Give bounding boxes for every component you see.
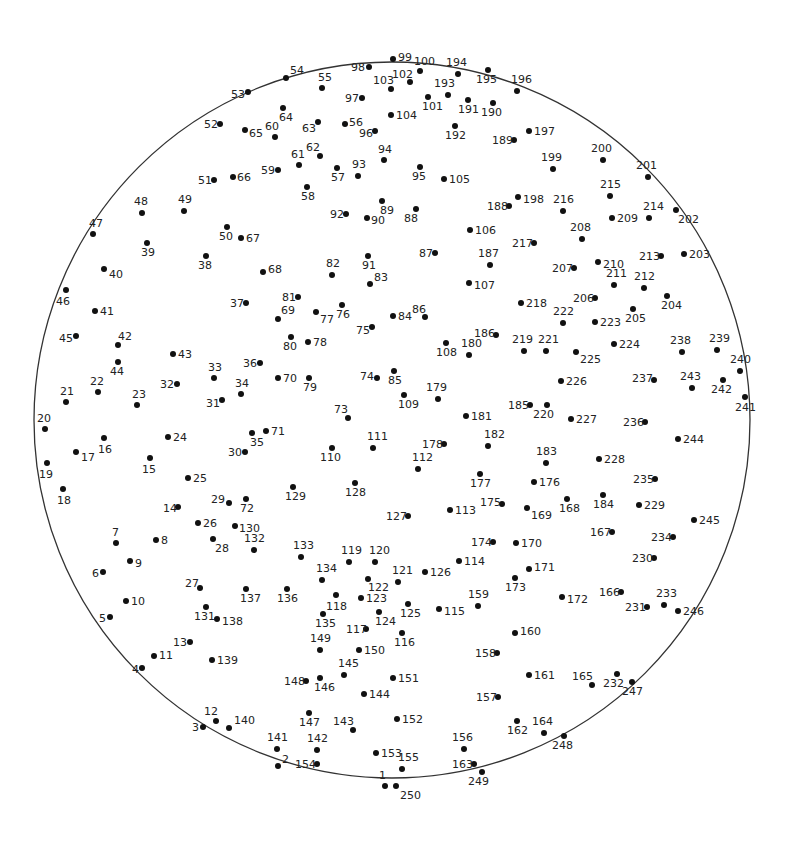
dot-point[interactable] <box>73 449 79 455</box>
dot-point[interactable] <box>195 520 201 526</box>
dot-point[interactable] <box>366 64 372 70</box>
dot-point[interactable] <box>181 208 187 214</box>
dot-point[interactable] <box>356 647 362 653</box>
dot-point[interactable] <box>283 75 289 81</box>
dot-point[interactable] <box>242 449 248 455</box>
dot-point[interactable] <box>147 455 153 461</box>
dot-point[interactable] <box>560 208 566 214</box>
dot-point[interactable] <box>232 523 238 529</box>
dot-point[interactable] <box>63 399 69 405</box>
dot-point[interactable] <box>275 763 281 769</box>
dot-point[interactable] <box>382 783 388 789</box>
dot-point[interactable] <box>592 319 598 325</box>
dot-point[interactable] <box>512 630 518 636</box>
dot-point[interactable] <box>466 352 472 358</box>
dot-point[interactable] <box>305 339 311 345</box>
dot-point[interactable] <box>445 92 451 98</box>
dot-point[interactable] <box>447 507 453 513</box>
dot-point[interactable] <box>275 375 281 381</box>
dot-point[interactable] <box>60 486 66 492</box>
dot-point[interactable] <box>341 672 347 678</box>
dot-point[interactable] <box>600 157 606 163</box>
dot-point[interactable] <box>95 389 101 395</box>
dot-point[interactable] <box>675 608 681 614</box>
dot-point[interactable] <box>317 647 323 653</box>
dot-point[interactable] <box>361 691 367 697</box>
dot-point[interactable] <box>742 394 748 400</box>
dot-point[interactable] <box>153 537 159 543</box>
dot-point[interactable] <box>661 602 667 608</box>
dot-point[interactable] <box>73 333 79 339</box>
dot-point[interactable] <box>388 112 394 118</box>
dot-point[interactable] <box>238 235 244 241</box>
dot-point[interactable] <box>63 287 69 293</box>
dot-point[interactable] <box>541 730 547 736</box>
dot-point[interactable] <box>359 95 365 101</box>
dot-point[interactable] <box>242 127 248 133</box>
dot-point[interactable] <box>487 262 493 268</box>
dot-point[interactable] <box>475 603 481 609</box>
dot-point[interactable] <box>90 231 96 237</box>
dot-point[interactable] <box>395 579 401 585</box>
dot-point[interactable] <box>463 413 469 419</box>
dot-point[interactable] <box>543 348 549 354</box>
dot-point[interactable] <box>422 569 428 575</box>
dot-point[interactable] <box>714 347 720 353</box>
dot-point[interactable] <box>390 313 396 319</box>
dot-point[interactable] <box>531 479 537 485</box>
dot-point[interactable] <box>435 396 441 402</box>
dot-point[interactable] <box>521 348 527 354</box>
dot-point[interactable] <box>641 285 647 291</box>
dot-point[interactable] <box>611 282 617 288</box>
dot-point[interactable] <box>213 718 219 724</box>
dot-point[interactable] <box>319 577 325 583</box>
dot-point[interactable] <box>139 210 145 216</box>
dot-point[interactable] <box>101 435 107 441</box>
dot-point[interactable] <box>515 194 521 200</box>
dot-point[interactable] <box>107 614 113 620</box>
dot-point[interactable] <box>550 166 556 172</box>
dot-point[interactable] <box>607 193 613 199</box>
dot-point[interactable] <box>100 569 106 575</box>
dot-point[interactable] <box>314 747 320 753</box>
dot-point[interactable] <box>165 434 171 440</box>
dot-point[interactable] <box>390 675 396 681</box>
dot-point[interactable] <box>681 251 687 257</box>
dot-point[interactable] <box>101 266 107 272</box>
dot-point[interactable] <box>456 558 462 564</box>
dot-point[interactable] <box>238 391 244 397</box>
dot-point[interactable] <box>737 368 743 374</box>
dot-point[interactable] <box>526 128 532 134</box>
dot-point[interactable] <box>187 639 193 645</box>
dot-point[interactable] <box>394 716 400 722</box>
dot-point[interactable] <box>257 360 263 366</box>
dot-point[interactable] <box>230 174 236 180</box>
dot-point[interactable] <box>364 215 370 221</box>
dot-point[interactable] <box>455 71 461 77</box>
dot-point[interactable] <box>645 174 651 180</box>
dot-point[interactable] <box>251 547 257 553</box>
dot-point[interactable] <box>275 167 281 173</box>
dot-point[interactable] <box>485 443 491 449</box>
dot-point[interactable] <box>355 173 361 179</box>
dot-point[interactable] <box>44 460 50 466</box>
dot-point[interactable] <box>609 215 615 221</box>
dot-point[interactable] <box>524 505 530 511</box>
dot-point[interactable] <box>42 426 48 432</box>
dot-point[interactable] <box>214 616 220 622</box>
dot-point[interactable] <box>319 85 325 91</box>
dot-point[interactable] <box>346 559 352 565</box>
dot-point[interactable] <box>329 272 335 278</box>
dot-point[interactable] <box>526 566 532 572</box>
dot-point[interactable] <box>461 746 467 752</box>
dot-point[interactable] <box>436 606 442 612</box>
dot-point[interactable] <box>134 402 140 408</box>
dot-point[interactable] <box>333 592 339 598</box>
dot-point[interactable] <box>367 281 373 287</box>
dot-point[interactable] <box>518 300 524 306</box>
dot-point[interactable] <box>466 280 472 286</box>
dot-point[interactable] <box>174 381 180 387</box>
dot-point[interactable] <box>185 475 191 481</box>
dot-point[interactable] <box>467 227 473 233</box>
dot-point[interactable] <box>245 89 251 95</box>
